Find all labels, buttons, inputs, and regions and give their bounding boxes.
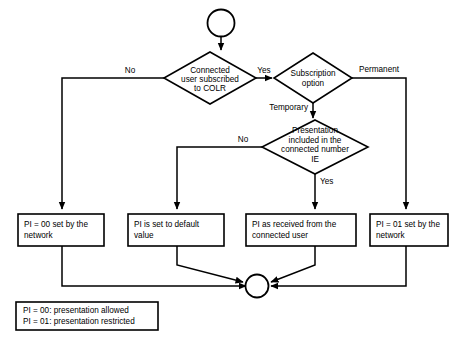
- legend-line-2: PI = 01: presentation restricted: [23, 317, 135, 326]
- process-pi-default-line-1: PI is set to default: [134, 220, 200, 229]
- flowchart-canvas: Connected user subscribed to COLR No Yes…: [0, 0, 461, 348]
- decision-connected-user-subscribed-line-2: user subscribed: [181, 75, 239, 84]
- process-pi-default: [128, 214, 224, 246]
- decision-presentation-included-line-1: Presentation: [292, 126, 338, 135]
- process-pi-default-line-2: value: [134, 231, 154, 240]
- process-pi-00-network: [18, 214, 104, 246]
- decision-connected-user-subscribed-line-1: Connected: [190, 66, 230, 75]
- process-pi-as-received-line-2: connected user: [252, 231, 308, 240]
- process-pi-00-network-line-1: PI = 00 set by the: [24, 220, 88, 229]
- legend-line-1: PI = 00: presentation allowed: [23, 306, 129, 315]
- process-pi-01-network-line-1: PI = 01 set by the: [376, 220, 440, 229]
- process-pi-as-received: [246, 214, 356, 246]
- decision-presentation-included-line-4: IE: [311, 155, 319, 164]
- edge-label-d1-no: No: [125, 66, 136, 75]
- process-pi-00-network-line-2: network: [24, 231, 54, 240]
- edge-label-d2-temporary: Temporary: [269, 103, 309, 112]
- decision-presentation-included-line-3: connected number: [281, 145, 349, 154]
- decision-subscription-option-line-2: option: [302, 79, 325, 88]
- process-pi-01-network-line-2: network: [376, 231, 406, 240]
- edge-p1-to-junction: [62, 246, 246, 286]
- edge-p4-to-junction: [271, 246, 406, 286]
- edge-label-d3-yes: Yes: [320, 177, 333, 186]
- decision-connected-user-subscribed-line-3: to COLR: [194, 84, 226, 93]
- edge-d1-no-to-p1: [62, 78, 164, 209]
- edge-label-d3-no: No: [238, 135, 249, 144]
- edge-label-d1-yes: Yes: [257, 66, 270, 75]
- flowchart-diagram: Connected user subscribed to COLR No Yes…: [0, 0, 461, 348]
- edge-p3-to-junction: [271, 246, 315, 282]
- decision-subscription-option-line-1: Subscription: [290, 69, 336, 78]
- process-pi-as-received-line-1: PI as received from the: [252, 220, 337, 229]
- edge-label-d2-permanent: Permanent: [359, 65, 400, 74]
- end-junction-node: [246, 275, 269, 298]
- edge-p2-to-junction: [177, 246, 243, 282]
- start-node: [208, 10, 235, 37]
- edge-d3-no-to-p2: [177, 147, 262, 209]
- decision-presentation-included-line-2: included in the: [289, 136, 342, 145]
- process-pi-01-network: [370, 214, 448, 246]
